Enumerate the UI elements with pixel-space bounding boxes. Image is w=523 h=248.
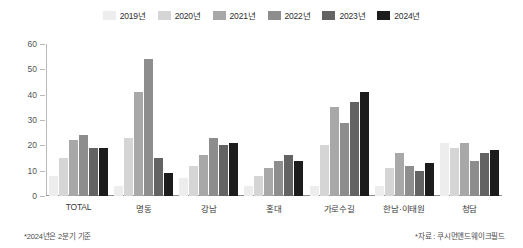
bar-group: 한남·이태원 bbox=[372, 44, 437, 196]
bar bbox=[294, 161, 303, 196]
bar bbox=[425, 163, 434, 196]
legend-label: 2021년 bbox=[230, 9, 256, 21]
bar bbox=[79, 135, 88, 196]
chart-legend: 2019년2020년2021년2022년2023년2024년 bbox=[0, 9, 523, 21]
bar bbox=[189, 166, 198, 196]
legend-label: 2023년 bbox=[339, 9, 365, 21]
bar-group: 명동 bbox=[111, 44, 176, 196]
bar bbox=[350, 102, 359, 196]
bar bbox=[69, 140, 78, 196]
bar bbox=[470, 161, 479, 196]
legend-swatch bbox=[322, 11, 335, 20]
bar bbox=[460, 143, 469, 196]
bar bbox=[134, 92, 143, 196]
y-axis-tick bbox=[40, 44, 45, 45]
y-axis-tick bbox=[40, 145, 45, 146]
y-axis-tick-label: 50 bbox=[28, 64, 37, 74]
bar-group: 강남 bbox=[176, 44, 241, 196]
bar-group: 청담 bbox=[437, 44, 502, 196]
bar bbox=[274, 161, 283, 196]
bar bbox=[385, 168, 394, 196]
bar bbox=[480, 153, 489, 196]
legend-label: 2020년 bbox=[175, 9, 201, 21]
bar bbox=[154, 158, 163, 196]
bar-group: 가로수길 bbox=[307, 44, 372, 196]
x-axis-category-label: 홍대 bbox=[266, 202, 282, 214]
bar bbox=[209, 138, 218, 196]
legend-swatch bbox=[103, 11, 116, 20]
y-axis-tick bbox=[40, 171, 45, 172]
bar bbox=[264, 168, 273, 196]
legend-label: 2019년 bbox=[120, 9, 146, 21]
bar bbox=[229, 143, 238, 196]
bar bbox=[360, 92, 369, 196]
x-axis-category-label: 한남·이태원 bbox=[383, 202, 425, 214]
y-axis-tick-label: 30 bbox=[28, 115, 37, 125]
bar bbox=[254, 176, 263, 196]
y-axis-tick-label: 20 bbox=[28, 140, 37, 150]
bar bbox=[114, 186, 123, 196]
legend-label: 2024년 bbox=[394, 9, 420, 21]
x-axis-category-label: 명동 bbox=[136, 202, 152, 214]
y-axis-tick-label: 0 bbox=[32, 191, 37, 201]
y-axis-tick-label: 40 bbox=[28, 90, 37, 100]
bar bbox=[89, 148, 98, 196]
x-axis-category-label: 청담 bbox=[462, 202, 478, 214]
y-axis-tick bbox=[40, 196, 45, 197]
bar bbox=[59, 158, 68, 196]
y-axis-tick bbox=[40, 95, 45, 96]
y-axis-tick-label: 60 bbox=[28, 39, 37, 49]
legend-label: 2022년 bbox=[285, 9, 311, 21]
legend-item: 2020년 bbox=[158, 9, 201, 21]
y-axis-tick bbox=[40, 69, 45, 70]
bar bbox=[340, 123, 349, 196]
bar-group: 홍대 bbox=[241, 44, 306, 196]
bar bbox=[99, 148, 108, 196]
legend-item: 2024년 bbox=[377, 9, 420, 21]
y-axis-tick bbox=[40, 120, 45, 121]
bar bbox=[49, 176, 58, 196]
legend-item: 2023년 bbox=[322, 9, 365, 21]
legend-swatch bbox=[213, 11, 226, 20]
bar bbox=[490, 150, 499, 196]
bar bbox=[144, 59, 153, 196]
x-axis-category-label: 강남 bbox=[201, 202, 217, 214]
plot-area: 0102030405060 TOTAL명동강남홍대가로수길한남·이태원청담 bbox=[46, 44, 502, 196]
y-axis-tick-label: 10 bbox=[28, 166, 37, 176]
bar bbox=[310, 186, 319, 196]
bar bbox=[320, 145, 329, 196]
bar bbox=[179, 178, 188, 196]
legend-swatch bbox=[377, 11, 390, 20]
x-axis-category-label: 가로수길 bbox=[324, 202, 355, 214]
bar bbox=[124, 138, 133, 196]
legend-swatch bbox=[268, 11, 281, 20]
legend-item: 2022년 bbox=[268, 9, 311, 21]
bar-groups: TOTAL명동강남홍대가로수길한남·이태원청담 bbox=[46, 44, 502, 196]
bar bbox=[219, 145, 228, 196]
legend-swatch bbox=[158, 11, 171, 20]
x-axis-category-label: TOTAL bbox=[66, 202, 92, 212]
bar bbox=[405, 166, 414, 196]
bar bbox=[415, 171, 424, 196]
bar bbox=[330, 107, 339, 196]
bar bbox=[450, 148, 459, 196]
bar-group: TOTAL bbox=[46, 44, 111, 196]
bar bbox=[164, 173, 173, 196]
footnote-right: *자료 : 쿠시먼앤드웨이크필드 bbox=[415, 230, 505, 241]
bar bbox=[375, 186, 384, 196]
bar bbox=[395, 153, 404, 196]
grouped-bar-chart: 2019년2020년2021년2022년2023년2024년 010203040… bbox=[0, 0, 523, 248]
footnote-left: *2024년은 2분기 기준 bbox=[24, 230, 91, 241]
legend-item: 2021년 bbox=[213, 9, 256, 21]
bar bbox=[199, 155, 208, 196]
bar bbox=[440, 143, 449, 196]
bar bbox=[284, 155, 293, 196]
legend-item: 2019년 bbox=[103, 9, 146, 21]
bar bbox=[244, 186, 253, 196]
